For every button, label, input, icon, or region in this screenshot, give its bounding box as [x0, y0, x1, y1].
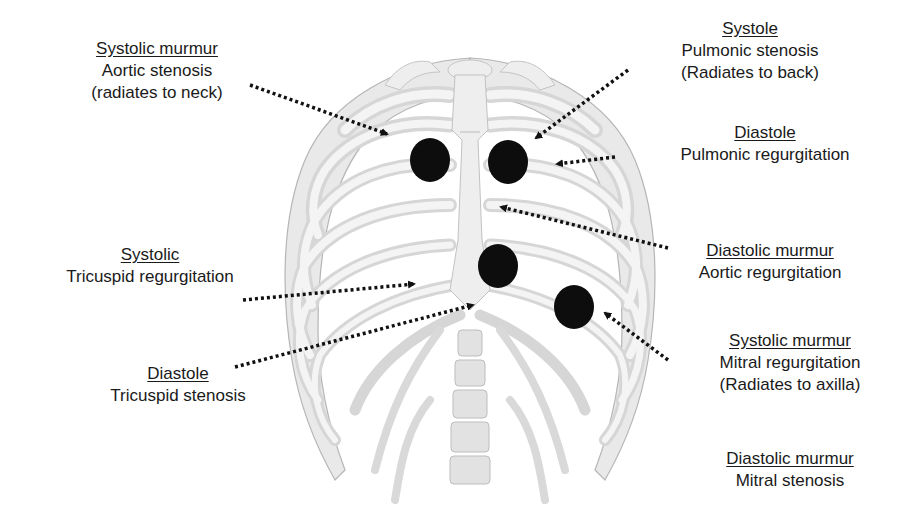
label-line: (Radiates to axilla)	[695, 374, 885, 396]
label-pulmonic-stenosis: Systole Pulmonic stenosis (Radiates to b…	[660, 18, 840, 84]
label-line: Pulmonic stenosis	[660, 40, 840, 62]
tricuspid-area-dot	[478, 244, 518, 288]
aortic-area-dot	[410, 138, 450, 182]
label-tricuspid-stenosis: Diastole Tricuspid stenosis	[88, 363, 268, 407]
mitral-area-dot	[554, 285, 594, 329]
label-heading: Systolic	[42, 244, 258, 266]
label-line: Pulmonic regurgitation	[655, 144, 875, 166]
label-line: Tricuspid stenosis	[88, 385, 268, 407]
label-aortic-regurgitation: Diastolic murmur Aortic regurgitation	[680, 240, 860, 284]
label-line: Tricuspid regurgitation	[42, 266, 258, 288]
label-line: Aortic regurgitation	[680, 262, 860, 284]
label-heading: Diastole	[655, 122, 875, 144]
label-heading: Diastolic murmur	[680, 240, 860, 262]
label-line: Aortic stenosis	[50, 60, 264, 82]
label-pulmonic-regurgitation: Diastole Pulmonic regurgitation	[655, 122, 875, 166]
label-heading: Systolic murmur	[695, 330, 885, 352]
label-aortic-stenosis: Systolic murmur Aortic stenosis (radiate…	[50, 38, 264, 104]
label-heading: Systole	[660, 18, 840, 40]
label-mitral-regurgitation: Systolic murmur Mitral regurgitation (Ra…	[695, 330, 885, 396]
label-line: (radiates to neck)	[50, 82, 264, 104]
spine	[450, 330, 490, 484]
label-line: Mitral regurgitation	[695, 352, 885, 374]
label-line: Mitral stenosis	[700, 470, 880, 492]
label-tricuspid-regurgitation: Systolic Tricuspid regurgitation	[42, 244, 258, 288]
label-heading: Diastole	[88, 363, 268, 385]
pulmonic-area-dot	[488, 140, 528, 184]
label-mitral-stenosis: Diastolic murmur Mitral stenosis	[700, 448, 880, 492]
label-heading: Systolic murmur	[50, 38, 264, 60]
label-line: (Radiates to back)	[660, 62, 840, 84]
label-heading: Diastolic murmur	[700, 448, 880, 470]
